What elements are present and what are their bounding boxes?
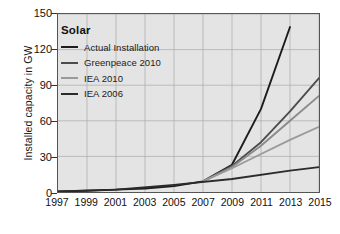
legend-items: Actual InstallationGreenpeace 2010IEA 20… [61, 41, 191, 100]
x-tick-2003: 2003 [133, 196, 156, 208]
x-tick-2005: 2005 [162, 196, 185, 208]
legend-item-label: IEA 2006 [84, 88, 123, 99]
legend-item-actual-installation: Actual Installation [61, 41, 191, 53]
y-tick-150: 150 [34, 7, 52, 19]
legend-item-iea-2006: IEA 2006 [61, 88, 191, 100]
legend-line-icon [61, 62, 78, 64]
legend-item-greenpeace-2010: Greenpeace 2010 [61, 57, 191, 69]
solar-capacity-chart: Installed capacity in GW 0306090120150 1… [0, 0, 340, 234]
legend-title: Solar [61, 24, 191, 36]
legend-line-icon [61, 46, 78, 48]
legend-line-icon [61, 93, 78, 95]
y-tick-120: 120 [34, 43, 52, 55]
x-tick-2001: 2001 [104, 196, 127, 208]
x-tick-2011: 2011 [250, 196, 273, 208]
y-tickmark-30 [51, 157, 57, 158]
x-tick-2009: 2009 [221, 196, 244, 208]
x-tick-1999: 1999 [75, 196, 98, 208]
x-tick-2013: 2013 [279, 196, 302, 208]
legend-line-icon [61, 77, 78, 79]
y-tickmark-150 [51, 13, 57, 14]
y-tickmark-0 [51, 193, 57, 194]
series-iea-2006 [58, 167, 319, 191]
legend-item-iea-2010: IEA 2010 [61, 72, 191, 84]
chart-legend: Solar Actual InstallationGreenpeace 2010… [61, 24, 191, 103]
legend-item-label: Greenpeace 2010 [84, 57, 161, 68]
x-tick-2015: 2015 [308, 196, 331, 208]
legend-item-label: IEA 2010 [84, 73, 123, 84]
y-tickmark-120 [51, 49, 57, 50]
legend-item-label: Actual Installation [84, 42, 159, 53]
x-tick-2007: 2007 [191, 196, 214, 208]
y-tickmark-60 [51, 121, 57, 122]
y-tickmark-90 [51, 85, 57, 86]
x-tick-1997: 1997 [45, 196, 68, 208]
